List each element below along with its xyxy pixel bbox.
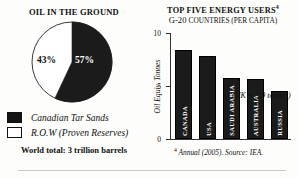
bar-chart-title: TOP FIVE ENERGY USERS4	[148, 4, 298, 15]
y-tick-label-10: 10	[154, 33, 162, 34]
uk-comparison-annotation: (UK = 3.9 tonnes)	[232, 91, 291, 100]
legend-label-tar-sands: Canadian Tar Sands	[31, 113, 109, 123]
bar-australia: AUSTRALIA	[247, 79, 264, 139]
bar-slot-canada: CANADA	[172, 33, 196, 139]
y-tick-label-5: 5	[157, 86, 161, 87]
legend-item-tar-sands: Canadian Tar Sands	[7, 110, 147, 125]
bar-chart-subtitle-smallcaps: COUNTRIES (PER CAPITA)	[189, 16, 278, 25]
bar-chart-title-footnote-marker: 4	[276, 4, 279, 10]
bar-series: CANADA USA SAUDI ARABIA AUSTRALIA	[172, 33, 291, 139]
bar-slot-usa: USA	[196, 33, 220, 139]
bar-label-usa: USA	[204, 122, 211, 136]
pie-chart: 43% 57%	[31, 21, 113, 103]
figure-root: OIL IN THE GROUND 43% 57% Canadian Tar S…	[0, 0, 298, 178]
oil-in-the-ground-panel: OIL IN THE GROUND 43% 57% Canadian Tar S…	[0, 0, 148, 178]
bar-label-canada: CANADA	[180, 106, 187, 136]
bottom-divider-rule	[18, 170, 286, 171]
bar-slot-australia: AUSTRALIA	[243, 33, 267, 139]
bar-chart-title-text: TOP FIVE ENERGY USERS	[167, 6, 276, 15]
x-axis-line	[170, 139, 291, 140]
legend-swatch-white	[7, 127, 22, 138]
bar-label-australia: AUSTRALIA	[252, 95, 259, 136]
bar-slot-russia: RUSSIA	[267, 33, 291, 139]
top-five-energy-users-panel: TOP FIVE ENERGY USERS4 G-20 COUNTRIES (P…	[148, 0, 298, 178]
bar-chart-footnote: 4 Annual (2005). Source: IEA.	[174, 147, 263, 157]
y-tick-10: 10	[166, 33, 170, 34]
bar-slot-saudi-arabia: SAUDI ARABIA	[220, 33, 244, 139]
y-tick-label-0: 0	[157, 139, 161, 140]
y-tick-5: 5	[166, 86, 170, 87]
bar-chart-footnote-marker: 4	[174, 147, 177, 153]
pie-label-tar-sands-percent: 57%	[75, 55, 94, 65]
y-axis-line	[170, 33, 171, 140]
bar-chart-plot-area: Oil Equiv. Tonnes 0 5 10 CANADA	[170, 33, 291, 140]
pie-label-row-percent: 43%	[37, 55, 56, 65]
legend-item-row: R.O.W (Proven Reserves)	[7, 125, 147, 140]
legend-swatch-black	[7, 112, 22, 123]
pie-chart-title: OIL IN THE GROUND	[0, 7, 148, 17]
pie-legend: Canadian Tar Sands R.O.W (Proven Reserve…	[7, 110, 147, 140]
y-tick-0: 0	[166, 139, 170, 140]
bar-canada: CANADA	[175, 50, 192, 139]
bar-usa: USA	[199, 56, 216, 139]
world-total-caption: World total: 3 trillion barrels	[0, 145, 148, 155]
bar-label-russia: RUSSIA	[276, 110, 283, 136]
bar-chart-subtitle: G-20 COUNTRIES (PER CAPITA)	[148, 15, 298, 25]
bar-chart-footnote-text: Annual (2005). Source: IEA.	[179, 148, 264, 157]
legend-label-row: R.O.W (Proven Reserves)	[31, 128, 128, 138]
bar-saudi-arabia: SAUDI ARABIA	[223, 78, 240, 140]
bar-chart-subtitle-prefix: G-20	[169, 15, 189, 25]
